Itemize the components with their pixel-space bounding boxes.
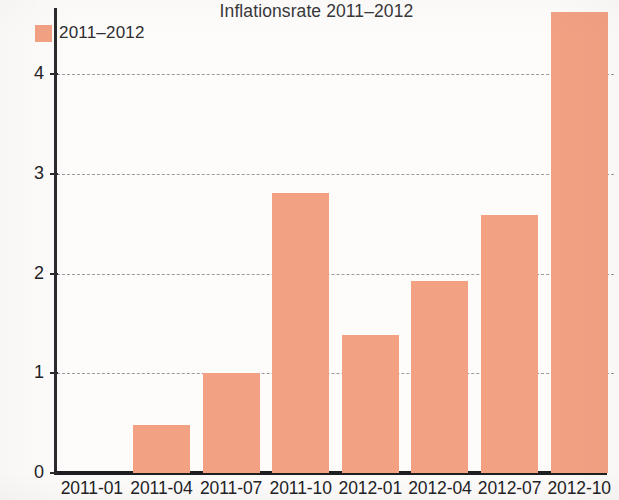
- x-tick-label: 2012-07: [475, 478, 545, 499]
- bar: [203, 373, 260, 473]
- x-tick-label: 2012-10: [544, 478, 614, 499]
- y-tick-mark: [50, 173, 58, 175]
- y-tick-label: 4: [14, 64, 44, 82]
- chart-title: Inflationsrate 2011–2012: [0, 1, 619, 22]
- y-tick-mark: [50, 273, 58, 275]
- bar: [342, 335, 399, 473]
- y-tick-label: 3: [14, 164, 44, 182]
- y-axis-line: [54, 8, 57, 474]
- bar: [272, 193, 329, 473]
- x-tick-label: 2011-01: [57, 478, 127, 499]
- chart-figure: Inflationsrate 2011–2012 2011–2012 01234…: [0, 0, 619, 500]
- x-tick-label: 2011-04: [127, 478, 197, 499]
- y-tick-label: 0: [14, 463, 44, 481]
- chart-legend: 2011–2012: [35, 23, 145, 43]
- bar: [411, 281, 468, 473]
- gridline: [57, 174, 614, 175]
- y-tick-mark: [50, 73, 58, 75]
- gridline: [57, 74, 614, 75]
- y-tick-label: 2: [14, 264, 44, 282]
- legend-swatch-icon: [35, 25, 52, 42]
- bar: [481, 215, 538, 473]
- x-tick-label: 2012-01: [336, 478, 406, 499]
- x-tick-label: 2012-04: [405, 478, 475, 499]
- y-tick-mark: [50, 372, 58, 374]
- x-tick-label: 2011-07: [196, 478, 266, 499]
- y-tick-mark: [50, 472, 58, 474]
- bar: [133, 425, 190, 473]
- legend-entry-label: 2011–2012: [59, 23, 145, 43]
- bar: [551, 12, 608, 473]
- y-tick-label: 1: [14, 363, 44, 381]
- x-tick-label: 2011-10: [266, 478, 336, 499]
